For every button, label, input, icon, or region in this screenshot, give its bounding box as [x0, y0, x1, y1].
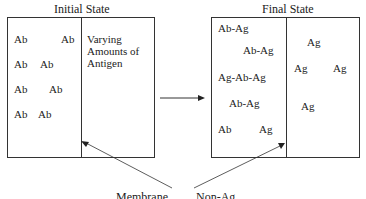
caption-left: Membrane [116, 190, 168, 199]
pointer-arrow-right-icon [194, 143, 285, 188]
caption-right: Non-Ag... [196, 190, 244, 199]
transition-arrow-icon [160, 95, 205, 101]
pointer-arrow-left-icon [81, 141, 172, 188]
arrows-layer [0, 0, 366, 199]
